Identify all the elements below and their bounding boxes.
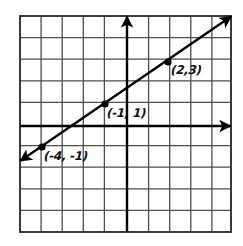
graph-figure: (2,3) (-1, 1) (-4, -1) <box>0 0 243 246</box>
point-label-neg4-neg1: (-4, -1) <box>44 150 89 162</box>
point-label-neg1-1: (-1, 1) <box>107 107 147 119</box>
grid-background <box>20 16 231 232</box>
point-label-2-3: (2,3) <box>171 64 203 76</box>
coordinate-plane <box>0 0 243 246</box>
